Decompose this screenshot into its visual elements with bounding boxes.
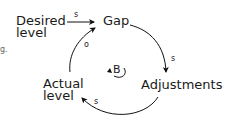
node-gap: Gap <box>103 15 129 27</box>
cropped-text-fragment: g. <box>0 45 8 54</box>
loop-label-balancing: B <box>113 64 121 76</box>
polarity-gap-adjustments: s <box>171 55 175 63</box>
node-desired-level: Desired level <box>16 15 66 39</box>
polarity-adjustments-actual: s <box>94 98 98 106</box>
node-actual-level: Actual level <box>43 78 84 102</box>
polarity-actual-gap: o <box>84 41 89 49</box>
polarity-desired-gap: s <box>74 11 78 19</box>
node-adjustments: Adjustments <box>141 79 222 91</box>
